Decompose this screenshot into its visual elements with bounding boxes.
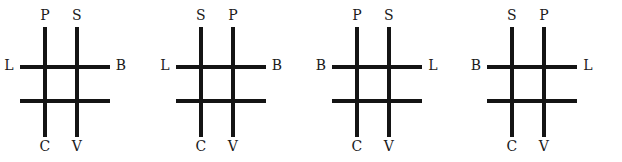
vertical-grid-line-left	[199, 27, 203, 137]
horizontal-grid-line-bottom	[20, 99, 110, 103]
grid-diagram-panel-3: P S B L C V	[312, 0, 467, 162]
vertical-grid-line-right	[75, 27, 79, 137]
label-left: B	[313, 58, 329, 72]
label-right: B	[113, 58, 129, 72]
label-bottom-right: V	[225, 139, 241, 153]
vertical-grid-line-left	[43, 27, 47, 137]
label-bottom-right: V	[69, 139, 85, 153]
vertical-grid-line-left	[510, 27, 514, 137]
label-top-right: P	[225, 8, 241, 22]
label-left: L	[157, 58, 173, 72]
vertical-grid-line-right	[231, 27, 235, 137]
label-top-right: P	[536, 8, 552, 22]
label-top-left: P	[37, 8, 53, 22]
label-bottom-left: C	[193, 139, 209, 153]
vertical-grid-line-right	[542, 27, 546, 137]
vertical-grid-line-left	[355, 27, 359, 137]
label-top-right: S	[381, 8, 397, 22]
grid-diagram-panel-4: S P B L C V	[467, 0, 622, 162]
label-right: L	[425, 58, 441, 72]
label-bottom-left: C	[504, 139, 520, 153]
grid-diagram-set: P S L B C V S P L B C V P S B L C V S	[0, 0, 622, 162]
label-bottom-right: V	[536, 139, 552, 153]
label-right: L	[580, 58, 596, 72]
horizontal-grid-line-top	[20, 65, 110, 69]
grid-diagram-panel-1: P S L B C V	[0, 0, 155, 162]
label-bottom-left: C	[349, 139, 365, 153]
horizontal-grid-line-top	[487, 65, 577, 69]
horizontal-grid-line-bottom	[176, 99, 266, 103]
label-bottom-left: C	[37, 139, 53, 153]
label-left: L	[1, 58, 17, 72]
horizontal-grid-line-top	[176, 65, 266, 69]
label-right: B	[269, 58, 285, 72]
label-top-left: S	[504, 8, 520, 22]
horizontal-grid-line-bottom	[332, 99, 422, 103]
label-top-left: S	[193, 8, 209, 22]
label-bottom-right: V	[381, 139, 397, 153]
label-left: B	[468, 58, 484, 72]
grid-diagram-panel-2: S P L B C V	[156, 0, 311, 162]
horizontal-grid-line-bottom	[487, 99, 577, 103]
label-top-right: S	[69, 8, 85, 22]
vertical-grid-line-right	[387, 27, 391, 137]
horizontal-grid-line-top	[332, 65, 422, 69]
label-top-left: P	[349, 8, 365, 22]
